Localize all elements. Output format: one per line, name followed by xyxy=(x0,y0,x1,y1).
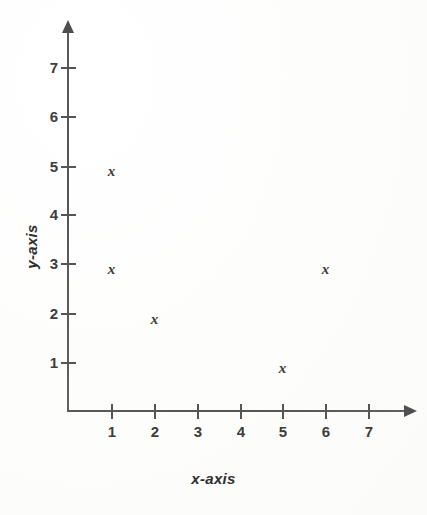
data-point-marker: x xyxy=(275,361,290,376)
y-tick-mark xyxy=(61,263,76,265)
y-tick-mark xyxy=(61,214,76,216)
y-tick-label-3: 3 xyxy=(40,256,58,271)
y-tick-mark xyxy=(61,313,76,315)
x-tick-mark xyxy=(154,404,156,419)
y-tick-mark xyxy=(61,166,76,168)
y-tick-label-4: 4 xyxy=(40,207,58,222)
y-axis-title: y-axis xyxy=(23,202,40,292)
x-tick-label-7: 7 xyxy=(360,424,378,439)
x-tick-label-2: 2 xyxy=(146,424,164,439)
x-tick-mark xyxy=(368,404,370,419)
y-tick-label-5: 5 xyxy=(40,159,58,174)
data-point-marker: x xyxy=(104,164,119,179)
x-tick-label-3: 3 xyxy=(189,424,207,439)
plot-area: 7 6 5 4 3 2 1 1 2 3 4 5 6 7 x x x x x x-… xyxy=(0,0,427,515)
x-axis-title: x-axis xyxy=(0,470,427,487)
x-tick-label-1: 1 xyxy=(103,424,121,439)
x-tick-label-5: 5 xyxy=(274,424,292,439)
x-tick-mark xyxy=(111,404,113,419)
data-point-marker: x xyxy=(104,262,119,277)
y-tick-mark xyxy=(61,67,76,69)
x-axis-arrow-icon xyxy=(404,405,417,417)
y-tick-mark xyxy=(61,362,76,364)
y-axis-line xyxy=(67,30,69,412)
y-axis-arrow-icon xyxy=(62,20,74,33)
x-tick-label-6: 6 xyxy=(317,424,335,439)
x-tick-label-4: 4 xyxy=(232,424,250,439)
y-tick-label-7: 7 xyxy=(40,60,58,75)
x-tick-mark xyxy=(197,404,199,419)
y-tick-mark xyxy=(61,116,76,118)
x-tick-mark xyxy=(325,404,327,419)
x-axis-line xyxy=(67,410,411,412)
x-tick-mark xyxy=(240,404,242,419)
scatter-plot-figure: 7 6 5 4 3 2 1 1 2 3 4 5 6 7 x x x x x x-… xyxy=(0,0,427,515)
data-point-marker: x xyxy=(318,262,333,277)
y-tick-label-6: 6 xyxy=(40,109,58,124)
x-tick-mark xyxy=(282,404,284,419)
data-point-marker: x xyxy=(147,312,162,327)
y-tick-label-2: 2 xyxy=(40,306,58,321)
y-tick-label-1: 1 xyxy=(40,355,58,370)
